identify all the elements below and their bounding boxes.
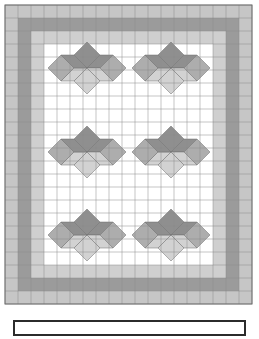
quilt-figure [0,0,259,339]
measure-bar [13,320,246,336]
quilt-diagram [0,0,259,313]
quilt-svg [0,0,259,313]
quilt-bands [5,5,252,304]
measure-bar-label [15,322,244,334]
